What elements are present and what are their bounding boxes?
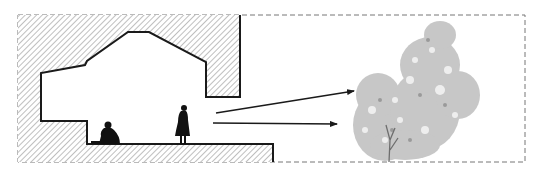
standing-figure <box>175 105 190 144</box>
tree-illustration <box>353 21 480 162</box>
diagram-canvas <box>0 0 541 178</box>
seated-figure <box>91 122 120 145</box>
section-diagram <box>0 0 541 178</box>
hatched-mass-upper <box>18 15 273 162</box>
sight-line-lower-arrow <box>213 123 337 124</box>
